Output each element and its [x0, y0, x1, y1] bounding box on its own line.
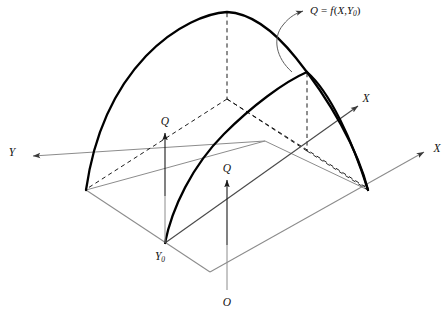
base-edge-left-front [86, 190, 210, 272]
axis-label-x-inner: X [361, 92, 370, 104]
label-q-back: Q [161, 115, 170, 127]
figure-root: Q=f(X,Y0) Y X X Q Q Y0 O [0, 0, 448, 318]
annotation-close: ) [357, 4, 361, 17]
annotation-q: Q [310, 4, 318, 16]
label-origin: O [223, 296, 232, 308]
annotation-equals: = [321, 4, 327, 16]
labels-group: Q=f(X,Y0) Y X X Q Q Y0 O [9, 4, 442, 308]
inner-axis-group [165, 106, 358, 243]
dashed-foot-to-right-corner [307, 151, 368, 190]
label-y-zero-sub: 0 [161, 255, 165, 264]
base-edge-left-rear [86, 141, 265, 190]
axis-x-inner-line [165, 106, 358, 243]
axis-x-outer-line [210, 152, 424, 272]
diagram-canvas: Q=f(X,Y0) Y X X Q Q Y0 O [0, 0, 448, 318]
annotation-equation: Q=f(X,Y0) [310, 4, 361, 18]
curve-cross-section [165, 72, 368, 243]
label-y-zero: Y0 [155, 250, 165, 264]
axis-label-x-outer: X [432, 142, 441, 154]
axis-label-y: Y [9, 146, 17, 158]
label-q-front: Q [223, 162, 232, 174]
